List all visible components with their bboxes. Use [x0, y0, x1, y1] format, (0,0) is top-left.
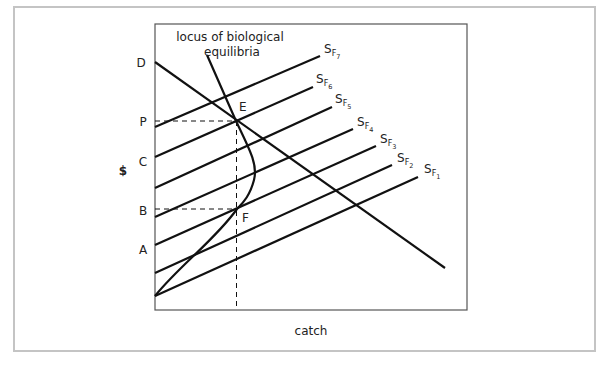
supply-label-F5: SF5 — [335, 92, 351, 111]
supply-line-F7 — [155, 56, 320, 127]
diagram-canvas: locus of biological equilibria D P C B A… — [0, 0, 608, 366]
supply-line-F6 — [155, 87, 313, 157]
supply-label-F2: SF2 — [397, 151, 413, 170]
y-label-D: D — [136, 56, 145, 70]
supply-label-F1: SF1 — [424, 162, 440, 181]
point-E-label: E — [239, 100, 247, 114]
x-axis-label: catch — [295, 324, 328, 338]
svg-text:SF6: SF6 — [316, 72, 332, 91]
svg-text:SF3: SF3 — [380, 132, 396, 151]
y-label-B: B — [139, 204, 147, 218]
locus-annotation-line2: equilibria — [204, 45, 260, 59]
supply-label-F3: SF3 — [380, 132, 396, 151]
svg-text:SF2: SF2 — [397, 151, 413, 170]
supply-line-F5 — [155, 107, 332, 188]
supply-label-F4: SF4 — [357, 115, 373, 134]
svg-text:SF1: SF1 — [424, 162, 440, 181]
svg-text:SF4: SF4 — [357, 115, 373, 134]
y-label-C: C — [139, 155, 147, 169]
supply-line-F1 — [155, 177, 418, 296]
locus-annotation-line1: locus of biological — [176, 30, 284, 44]
svg-text:SF7: SF7 — [324, 42, 340, 61]
supply-line-F2 — [155, 165, 392, 273]
supply-label-F7: SF7 — [324, 42, 340, 61]
y-label-A: A — [139, 243, 148, 257]
svg-text:SF5: SF5 — [335, 92, 351, 111]
supply-label-F6: SF6 — [316, 72, 332, 91]
y-axis-label: $ — [119, 164, 127, 178]
point-F-label: F — [242, 211, 249, 225]
y-label-P: P — [139, 115, 146, 129]
